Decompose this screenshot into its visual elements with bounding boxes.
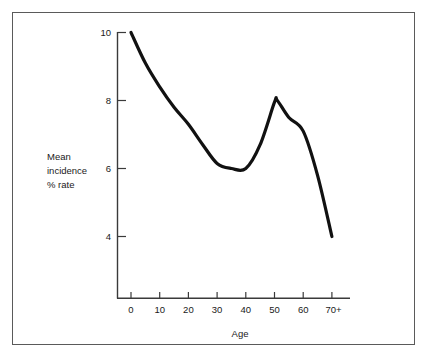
data-series-line — [131, 33, 332, 237]
x-tick-label-70plus: 70+ — [325, 305, 341, 315]
y-axis-title: Mean incidence % rate — [47, 150, 87, 191]
y-tick-label-6: 6 — [106, 164, 111, 174]
y-tick-label-8: 8 — [106, 96, 111, 106]
y-tick-label-10: 10 — [100, 28, 111, 38]
y-tick-label-4: 4 — [106, 232, 111, 242]
x-axis-ticks — [131, 292, 332, 298]
x-tick-label-30: 30 — [212, 305, 223, 315]
x-tick-label-10: 10 — [154, 305, 165, 315]
x-tick-label-60: 60 — [298, 305, 309, 315]
x-tick-label-0: 0 — [128, 305, 133, 315]
chart-figure: 10 8 6 4 0 10 20 30 40 50 60 70+ Mean in… — [0, 0, 429, 359]
x-tick-label-50: 50 — [269, 305, 280, 315]
x-tick-label-20: 20 — [183, 305, 194, 315]
x-tick-label-40: 40 — [241, 305, 252, 315]
x-axis-title: Age — [232, 328, 249, 339]
y-axis-ticks — [118, 33, 127, 237]
